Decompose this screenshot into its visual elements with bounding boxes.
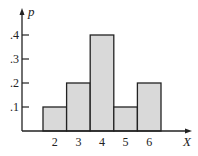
y-axis-label: p <box>27 4 35 19</box>
bar-5 <box>114 107 138 131</box>
y-ticks: .1.2.3.4 <box>10 28 29 114</box>
bars <box>43 35 161 131</box>
probability-histogram: .1.2.3.4 23456 p X <box>0 0 198 156</box>
y-tick-label: .4 <box>10 28 19 42</box>
bar-6 <box>137 83 161 131</box>
x-tick-label: 6 <box>146 135 152 149</box>
bar-3 <box>67 83 91 131</box>
x-tick-label: 4 <box>99 135 105 149</box>
x-ticks: 23456 <box>52 135 152 149</box>
x-tick-label: 5 <box>123 135 129 149</box>
y-tick-label: .1 <box>10 100 19 114</box>
x-axis-arrow-icon <box>185 129 192 134</box>
y-axis-arrow-icon <box>20 8 25 15</box>
x-tick-label: 3 <box>75 135 81 149</box>
bar-2 <box>43 107 67 131</box>
y-tick-label: .3 <box>10 52 19 66</box>
x-axis-label: X <box>182 134 192 149</box>
x-tick-label: 2 <box>52 135 58 149</box>
bar-4 <box>90 35 114 131</box>
y-tick-label: .2 <box>10 76 19 90</box>
